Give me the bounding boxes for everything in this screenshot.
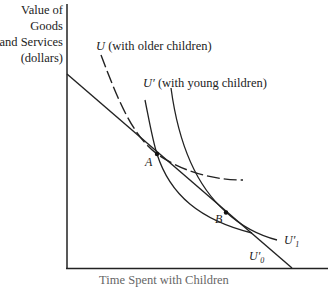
x-axis-label: Time Spent with Children: [0, 273, 328, 288]
label-u0-prime: U′0: [249, 249, 264, 265]
indifference-curve-u0-prime: [145, 100, 252, 233]
point-b-marker: [224, 210, 228, 214]
indifference-curve-u-older: [101, 55, 243, 180]
budget-line: [67, 74, 292, 268]
label-point-b: B: [215, 212, 223, 226]
point-a-marker: [155, 152, 159, 156]
label-u-prime-young: U′ (with young children): [143, 76, 267, 90]
label-u-older: U (with older children): [96, 39, 212, 53]
indifference-curve-u1-prime: [171, 88, 277, 240]
label-u1-prime: U′1: [284, 233, 299, 249]
label-point-a: A: [144, 155, 153, 169]
